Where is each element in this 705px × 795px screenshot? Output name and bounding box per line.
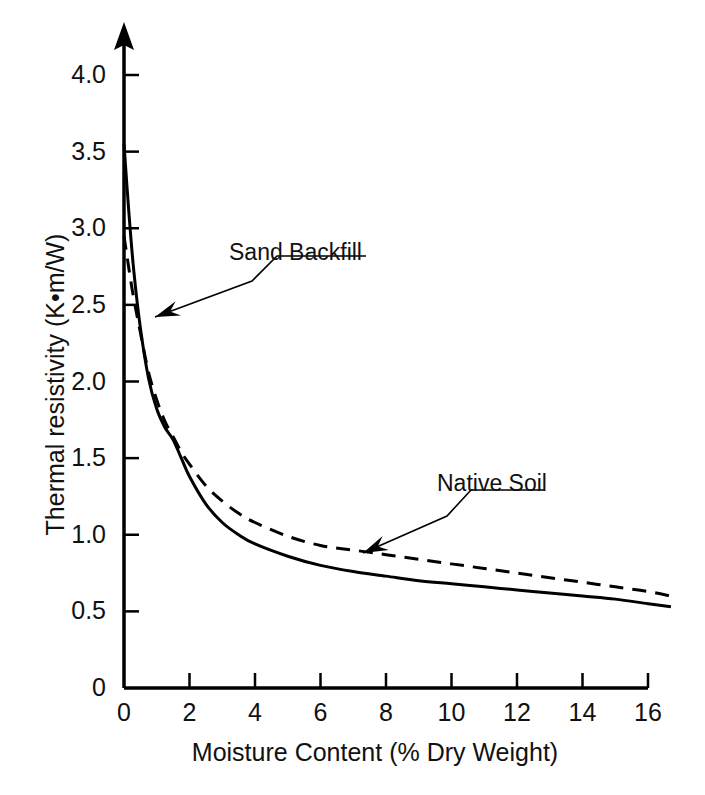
- x-axis-title: Moisture Content (% Dry Weight): [90, 738, 660, 767]
- annotation-label-sand-backfill: Sand Backfill: [229, 239, 362, 266]
- annotation-leaders: [155, 256, 545, 553]
- series-line-native-soil: [124, 236, 671, 596]
- x-axis-ticks: [190, 673, 649, 688]
- annotation-label-native-soil: Native Soil: [437, 470, 547, 497]
- x-tick-label: 16: [608, 698, 688, 727]
- annotation-arrowhead-icon-native-soil: [363, 536, 389, 553]
- y-axis-title: Thermal resistivity (K•m/W): [41, 170, 70, 600]
- thermal-resistivity-chart: 00.51.01.52.02.53.03.54.0 0246810121416 …: [0, 0, 705, 795]
- annotation-leader-native-soil: [363, 490, 545, 553]
- axes: [114, 22, 648, 688]
- y-tick-label: 3.5: [10, 137, 106, 166]
- y-tick-label: 4.0: [10, 60, 106, 89]
- y-tick-label: 0.5: [10, 596, 106, 625]
